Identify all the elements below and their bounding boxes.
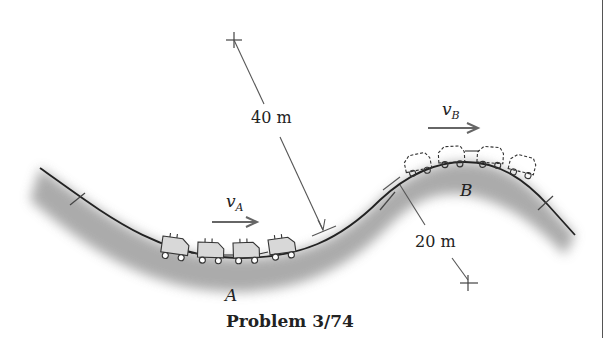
roller-coaster-diagram (0, 0, 607, 338)
radius-line-a (234, 40, 336, 236)
velocity-arrow-b (428, 123, 478, 133)
center-cross-b (460, 275, 478, 291)
velocity-symbol: v (442, 99, 452, 119)
figure-caption: Problem 3/74 (226, 311, 354, 331)
radius-label-a: 40 m (251, 108, 292, 127)
page-border-line (602, 0, 603, 338)
velocity-arrow-a (212, 217, 257, 227)
track-shading (30, 162, 575, 292)
velocity-subscript: B (452, 109, 460, 122)
velocity-label-b: vB (442, 99, 460, 122)
velocity-subscript: A (236, 201, 244, 214)
diagram-canvas: 40 m 20 m A B vA vB Problem 3/74 (0, 0, 607, 338)
point-label-a: A (225, 285, 237, 305)
radius-label-b: 20 m (415, 232, 456, 251)
point-label-b: B (460, 180, 473, 200)
velocity-label-a: vA (226, 191, 244, 214)
velocity-symbol: v (226, 191, 236, 211)
